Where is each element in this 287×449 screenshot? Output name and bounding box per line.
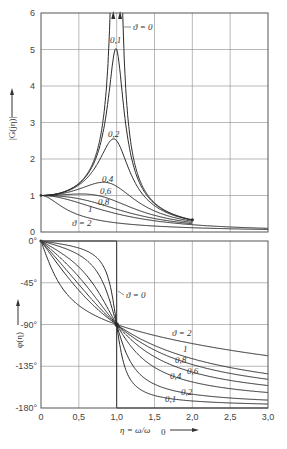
phase-y-tick-label: -90° [20, 320, 37, 330]
phase-plot: 0°-45°-90°-135°-180° 00,51,01,52,02,53,0… [14, 236, 274, 437]
x-axis-arrow-icon [170, 428, 199, 432]
mag-y-tick-label: 3 [30, 118, 35, 128]
arrow-up-icon [111, 11, 115, 19]
mag-curve-theta-0 [41, 0, 113, 195]
phase-label-theta-2: ϑ = 2 [172, 328, 192, 338]
phase-label-0-1: 0,1 [165, 394, 176, 404]
phase-y-arrow-icon [16, 299, 20, 325]
magnitude-grid [41, 13, 268, 232]
svg-text:|G(jη)|: |G(jη)| [7, 116, 17, 140]
mag-label-0-1: 0,1 [110, 35, 121, 45]
convergence-dot [191, 218, 194, 221]
mag-label-theta-0: ϑ = 0 [133, 22, 153, 32]
x-tick-label: 1,0 [110, 412, 123, 422]
phase-y-axis-label: φ(η) [14, 332, 24, 348]
phase-label-0-4: 0,4 [170, 371, 182, 381]
mag-y-tick-label: 6 [30, 8, 35, 18]
mag-label-0-6: 0,6 [100, 186, 112, 196]
x-tick-label: 0,5 [73, 412, 86, 422]
mag-y-tick-label: 1 [30, 191, 35, 201]
mag-label-0-8: 0,8 [98, 197, 110, 207]
x-axis-label: η = ω/ω 0 [120, 425, 166, 437]
frequency-response-chart: 0123456 ϑ = 0 0,1 0,2 0,4 0,6 0,8 1 ϑ = … [0, 0, 287, 449]
arrow-up-icon [118, 11, 122, 19]
phase-label-theta-0-leader [118, 291, 124, 295]
svg-text:η = ω/ω: η = ω/ω [120, 425, 150, 435]
magnitude-curves [40, 0, 268, 229]
phase-label-0-8: 0,8 [175, 355, 187, 365]
phase-label-theta-0: ϑ = 0 [126, 290, 146, 300]
x-tick-label: 2,5 [224, 412, 237, 422]
phase-curves [39, 239, 268, 408]
mag-label-1: 1 [88, 204, 93, 214]
x-tick-label: 0 [38, 412, 43, 422]
magnitude-y-arrow-icon [10, 88, 14, 117]
magnitude-y-ticks: 0123456 [30, 8, 35, 237]
magnitude-y-axis-label: |G(jη)| [7, 116, 17, 140]
x-tick-label: 2,0 [186, 412, 199, 422]
phase-label-1: 1 [183, 344, 188, 354]
mag-y-tick-label: 5 [30, 45, 35, 55]
phase-label-0-6: 0,6 [187, 366, 199, 376]
svg-text:0: 0 [161, 427, 166, 437]
mag-curve-theta-0 [120, 0, 192, 220]
phase-grid [41, 241, 268, 408]
x-ticks: 00,51,01,52,02,53,0 [38, 412, 274, 422]
svg-text:φ(η): φ(η) [14, 332, 24, 348]
mag-y-tick-label: 2 [30, 154, 35, 164]
x-tick-label: 1,5 [148, 412, 161, 422]
phase-y-tick-label: -135° [15, 361, 37, 371]
mag-label-theta-2: ϑ = 2 [72, 218, 92, 228]
phase-y-tick-label: 0° [28, 236, 37, 246]
mag-label-0-2: 0,2 [108, 129, 120, 139]
magnitude-plot: 0123456 ϑ = 0 0,1 0,2 0,4 0,6 0,8 1 ϑ = … [7, 0, 268, 237]
phase-y-tick-label: -180° [15, 403, 37, 413]
phase-y-ticks: 0°-45°-90°-135°-180° [15, 236, 37, 413]
mag-y-tick-label: 4 [30, 81, 35, 91]
phase-label-0-2: 0,2 [181, 387, 193, 397]
mag-label-0-4: 0,4 [102, 174, 114, 184]
phase-y-tick-label: -45° [20, 278, 37, 288]
x-tick-label: 3,0 [262, 412, 275, 422]
phase-pivot-dot [114, 322, 118, 326]
